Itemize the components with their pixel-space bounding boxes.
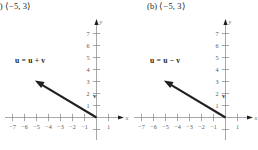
svg-text:−6: −6 bbox=[150, 123, 157, 130]
svg-text:1: 1 bbox=[236, 123, 239, 130]
svg-text:5: 5 bbox=[86, 54, 89, 61]
svg-text:1: 1 bbox=[107, 123, 110, 130]
svg-text:x: x bbox=[254, 114, 258, 121]
svg-text:y: y bbox=[228, 18, 232, 25]
svg-text:−3: −3 bbox=[57, 123, 64, 130]
svg-text:−2: −2 bbox=[198, 123, 205, 130]
svg-text:2: 2 bbox=[215, 90, 218, 97]
svg-text:3: 3 bbox=[86, 78, 89, 85]
svg-text:6: 6 bbox=[86, 42, 89, 49]
svg-text:−6: −6 bbox=[21, 123, 28, 130]
panel-b-caption: (b) ⟨−5, 3⟩ bbox=[147, 1, 186, 11]
svg-text:1: 1 bbox=[215, 102, 218, 109]
svg-text:4: 4 bbox=[215, 66, 218, 73]
panel-a-caption: (a) ⟨−5, 3⟩ bbox=[0, 1, 31, 11]
panel-b-x-axis: x bbox=[134, 114, 258, 121]
svg-text:−5: −5 bbox=[162, 123, 169, 130]
panel-b-y-axis: y bbox=[223, 18, 231, 140]
svg-text:−5: −5 bbox=[33, 123, 40, 130]
panel-a-x-axis: x bbox=[5, 114, 129, 121]
svg-text:−4: −4 bbox=[174, 123, 181, 130]
svg-text:−1: −1 bbox=[210, 123, 217, 130]
vector-figure-pair: (a) ⟨−5, 3⟩ y x bbox=[0, 0, 258, 150]
panel-a-plot: y x −7 bbox=[0, 16, 129, 150]
svg-text:3: 3 bbox=[215, 78, 218, 85]
svg-text:y: y bbox=[99, 18, 103, 25]
panel-b-vector-label: u = u − v bbox=[150, 56, 180, 65]
svg-text:1: 1 bbox=[86, 102, 89, 109]
panel-a-vector bbox=[35, 80, 97, 117]
svg-text:−3: −3 bbox=[186, 123, 193, 130]
svg-text:7: 7 bbox=[86, 30, 89, 37]
svg-text:4: 4 bbox=[86, 66, 89, 73]
svg-text:−7: −7 bbox=[138, 123, 145, 130]
panel-b-origin-label: v bbox=[222, 92, 225, 99]
svg-text:5: 5 bbox=[215, 54, 218, 61]
svg-text:7: 7 bbox=[215, 30, 218, 37]
svg-text:2: 2 bbox=[86, 90, 89, 97]
figure-panel-a: (a) ⟨−5, 3⟩ y x bbox=[0, 0, 129, 150]
svg-text:x: x bbox=[125, 114, 129, 121]
panel-a-y-axis: y bbox=[94, 18, 102, 140]
svg-text:−2: −2 bbox=[69, 123, 76, 130]
svg-text:−1: −1 bbox=[81, 123, 88, 130]
panel-a-origin-label: v bbox=[93, 92, 96, 99]
panel-a-vector-label: u = u + v bbox=[15, 56, 45, 65]
svg-text:−7: −7 bbox=[9, 123, 16, 130]
svg-text:6: 6 bbox=[215, 42, 218, 49]
svg-text:−4: −4 bbox=[45, 123, 52, 130]
panel-b-plot: y x −7 bbox=[129, 16, 258, 150]
panel-b-vector bbox=[164, 80, 226, 117]
figure-panel-b: (b) ⟨−5, 3⟩ y x bbox=[129, 0, 258, 150]
